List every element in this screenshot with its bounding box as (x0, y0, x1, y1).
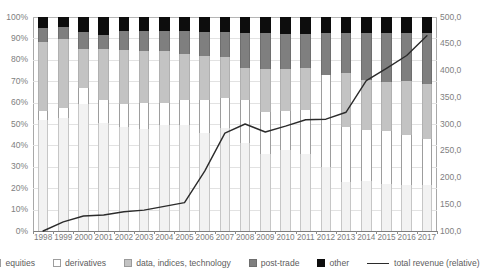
y-axis-left-label-30%: 30% (0, 161, 28, 171)
y-axis-right-label-350,0: 350,0 (440, 92, 472, 102)
y-axis-right-label-300,0: 300,0 (440, 119, 472, 129)
legend-label: data, indices, technology (136, 258, 231, 268)
total-revenue-line-series (33, 17, 437, 231)
legend-label: equities (5, 258, 35, 268)
legend-swatch-icon (124, 259, 132, 267)
legend-label: other (329, 258, 349, 268)
legend-label: post-trade (261, 258, 300, 268)
y-axis-left-label-90%: 90% (0, 33, 28, 43)
y-axis-right-label-250,0: 250,0 (440, 145, 472, 155)
y-axis-left-label-20%: 20% (0, 183, 28, 193)
legend-swatch-icon (53, 259, 61, 267)
legend-item-equities[interactable]: equities (0, 258, 35, 268)
y-axis-right-label-150,0: 150,0 (440, 199, 472, 209)
y-axis-left-label-80%: 80% (0, 54, 28, 64)
legend-item-derivatives[interactable]: derivatives (53, 258, 106, 268)
legend-item-other[interactable]: other (317, 258, 349, 268)
total-revenue-line (43, 36, 427, 231)
x-axis-tickmark (437, 231, 438, 234)
y-axis-left-label-70%: 70% (0, 76, 28, 86)
legend-item-post-trade[interactable]: post-trade (249, 258, 300, 268)
y-axis-left-label-100%: 100% (0, 12, 28, 22)
chart-title (0, 0, 473, 2)
y-axis-right-label-400,0: 400,0 (440, 65, 472, 75)
y-axis-right-label-450,0: 450,0 (440, 38, 472, 48)
legend-item-data-indices-technology[interactable]: data, indices, technology (124, 258, 231, 268)
legend-label: total revenue (relative) (394, 258, 480, 268)
legend-swatch-icon (249, 259, 257, 267)
y-axis-left-label-10%: 10% (0, 204, 28, 214)
y-axis-right-label-100,0: 100,0 (440, 226, 472, 236)
y-axis-left-label-50%: 50% (0, 119, 28, 129)
x-axis-label-2017: 2017 (415, 233, 439, 242)
legend-line-marker-icon (367, 263, 389, 264)
y-axis-right-label-500,0: 500,0 (440, 12, 472, 22)
plot-area (33, 17, 437, 231)
y-axis-left-label-60%: 60% (0, 97, 28, 107)
chart-legend: equitiesderivativesdata, indices, techno… (0, 253, 473, 273)
legend-swatch-icon (317, 259, 325, 267)
legend-swatch-icon (0, 259, 1, 267)
legend-label: derivatives (65, 258, 106, 268)
y-axis-left-label-0%: 0% (0, 226, 28, 236)
legend-item-total-revenue-relative[interactable]: total revenue (relative) (367, 258, 480, 268)
y-axis-left-label-40%: 40% (0, 140, 28, 150)
y-axis-right-label-200,0: 200,0 (440, 172, 472, 182)
